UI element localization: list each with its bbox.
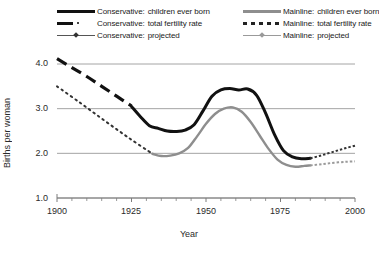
- data-series-group: [57, 59, 355, 167]
- series-line: [132, 89, 311, 159]
- series-line: [57, 59, 132, 106]
- series-line: [152, 107, 310, 167]
- series-line: [310, 146, 355, 159]
- series-line: [57, 86, 152, 153]
- x-axis-ticks-group: [57, 194, 355, 202]
- gridlines-group: [57, 64, 355, 198]
- series-line: [310, 161, 355, 165]
